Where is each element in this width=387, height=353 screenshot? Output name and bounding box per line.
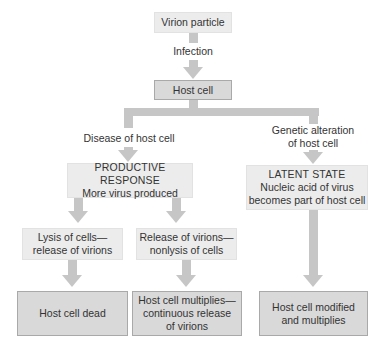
branch-horizontal-bar	[124, 108, 319, 116]
node-latent-line2: becomes part of host cell	[249, 194, 366, 207]
arrow-head-to-multiplies	[176, 275, 196, 287]
node-lysis-of-cells: Lysis of cells— release of virions	[22, 228, 123, 260]
arrow-head-genetic	[303, 152, 323, 164]
arrow-shaft-to-release	[172, 198, 181, 212]
node-productive-subtitle: More virus produced	[82, 187, 178, 200]
node-host-cell-multiplies: Host cell multiplies— continuous release…	[132, 291, 242, 336]
node-latent-title: LATENT STATE	[269, 168, 346, 181]
node-virion-particle-text: Virion particle	[161, 16, 224, 29]
arrow-shaft-to-modified	[309, 210, 318, 276]
arrow-shaft-infection-top	[189, 33, 198, 43]
node-latent-line1: Nucleic acid of virus	[260, 181, 353, 194]
node-host-cell-modified: Host cell modified and multiplies	[259, 291, 368, 336]
node-host-cell-dead: Host cell dead	[17, 291, 128, 336]
arrow-head-infection	[183, 67, 203, 79]
arrow-shaft-to-lysis	[74, 198, 83, 212]
edge-label-genetic-alteration: Genetic alteration of host cell	[258, 124, 368, 150]
node-release-of-virions: Release of virions— nonlysis of cells	[136, 228, 237, 260]
arrow-head-to-modified	[303, 275, 323, 287]
arrow-head-to-lysis	[68, 211, 88, 223]
node-virion-particle: Virion particle	[154, 12, 232, 33]
node-latent-state: LATENT STATE Nucleic acid of virus becom…	[246, 165, 368, 210]
arrow-shaft-to-dead	[68, 260, 77, 276]
node-host-cell-text: Host cell	[173, 84, 213, 97]
arrow-head-to-dead	[62, 275, 82, 287]
node-host-cell: Host cell	[154, 80, 232, 100]
branch-right-vertical	[309, 108, 318, 124]
arrow-head-to-release	[166, 211, 186, 223]
branch-left-vertical	[124, 108, 133, 128]
node-productive-title: PRODUCTIVE RESPONSE	[68, 161, 192, 187]
edge-label-disease: Disease of host cell	[69, 132, 189, 145]
edge-label-infection: Infection	[163, 45, 223, 58]
arrow-shaft-to-multiplies	[182, 260, 191, 276]
node-productive-response: PRODUCTIVE RESPONSE More virus produced	[67, 163, 193, 198]
